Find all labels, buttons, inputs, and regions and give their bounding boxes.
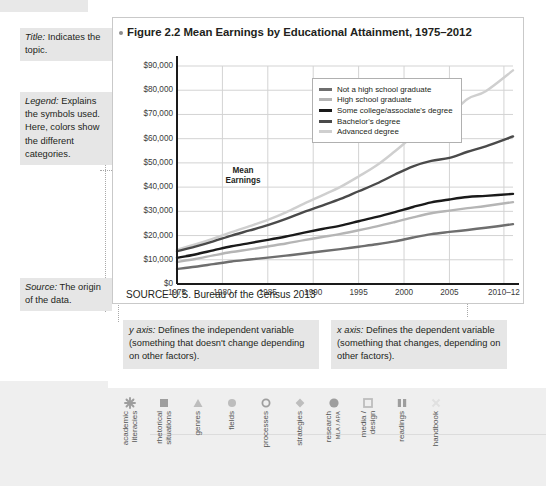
nav-item-genres[interactable]: genres xyxy=(185,395,211,486)
nav-item-label: readings xyxy=(397,411,406,442)
filled-circle-icon xyxy=(226,395,238,407)
nav-item-label: strategies xyxy=(295,411,304,446)
faded-x-icon xyxy=(430,395,442,407)
annotation-x-axis-label: x axis: xyxy=(337,325,363,335)
legend-item: Some college/associate's degree xyxy=(319,105,453,116)
nav-item-label: researchMLA / APA xyxy=(324,411,344,442)
nav-item-strategies[interactable]: strategies xyxy=(287,395,313,486)
legend-item: High school graduate xyxy=(319,95,453,106)
nav-item-research[interactable]: researchMLA / APA xyxy=(321,395,347,486)
x-tick-label: 2005 xyxy=(425,288,473,297)
legend-label: Bachelor's degree xyxy=(337,117,400,126)
asterisk-icon xyxy=(124,395,136,407)
annotation-legend: Legend: Explains the symbols used. Here,… xyxy=(20,92,112,165)
nav-item-label: genres xyxy=(193,411,202,435)
bottom-nav: academicliteraciesrhetoricalsituationsge… xyxy=(0,381,546,486)
y-tick-label: $90,000 xyxy=(117,61,173,70)
nav-item-label: processes xyxy=(261,411,270,447)
legend-swatch-icon xyxy=(319,109,332,112)
nav-item-handbook[interactable]: handbook xyxy=(423,395,449,486)
annotation-title-label: Title: xyxy=(25,32,45,42)
nav-item-processes[interactable]: processes xyxy=(253,395,279,486)
y-tick-label: $0 xyxy=(117,279,173,288)
legend-label: High school graduate xyxy=(337,95,412,104)
top-left-gray-band xyxy=(0,0,88,12)
y-tick-label: $60,000 xyxy=(117,134,173,143)
legend-item: Advanced degree xyxy=(319,126,453,137)
legend-item: Bachelor's degree xyxy=(319,116,453,127)
large-circle-icon xyxy=(328,395,340,407)
legend-label: Some college/associate's degree xyxy=(337,106,453,115)
x-tick-label: 2000 xyxy=(380,288,428,297)
hollow-square-icon xyxy=(362,395,374,407)
legend-label: Advanced degree xyxy=(337,127,399,136)
x-tick-label: 1995 xyxy=(335,288,383,297)
plot-area: Mean Earnings $0$10,000$20,000$30,000$40… xyxy=(113,18,525,305)
nav-item-media--[interactable]: media /design xyxy=(355,395,381,486)
nav-item-label: rhetoricalsituations xyxy=(155,411,174,445)
annotation-y-axis: y axis: Defines the independent variable… xyxy=(123,320,319,369)
y-tick-label: $50,000 xyxy=(117,158,173,167)
nav-item-label: handbook xyxy=(431,411,440,446)
y-tick-label: $40,000 xyxy=(117,182,173,191)
figure-card: Figure 2.2 Mean Earnings by Educational … xyxy=(112,17,524,304)
annotation-legend-label: Legend: xyxy=(25,96,59,106)
legend-label: Not a high school graduate xyxy=(337,85,431,94)
y-tick-label: $80,000 xyxy=(117,85,173,94)
annotation-y-axis-text: Defines the independent variable (someth… xyxy=(129,325,304,361)
nav-item-fields[interactable]: fields xyxy=(219,395,245,486)
annotation-source-label: Source: xyxy=(25,282,57,292)
nav-item-academic[interactable]: academicliteracies xyxy=(117,395,143,486)
triangle-icon xyxy=(192,395,204,407)
nav-item-label: fields xyxy=(227,411,236,430)
diamond-icon xyxy=(294,395,306,407)
legend-item: Not a high school graduate xyxy=(319,84,453,95)
filled-square-icon xyxy=(158,395,170,407)
annotation-title: Title: Indicates the topic. xyxy=(20,28,112,61)
y-tick-label: $70,000 xyxy=(117,109,173,118)
nav-item-rhetorical[interactable]: rhetoricalsituations xyxy=(151,395,177,486)
annotation-y-axis-label: y axis: xyxy=(129,325,155,335)
legend-swatch-icon xyxy=(319,88,332,91)
y-tick-label: $30,000 xyxy=(117,206,173,215)
y-tick-label: $10,000 xyxy=(117,255,173,264)
x-tick-label: 2010–12 xyxy=(480,288,528,297)
annotation-x-axis: x axis: Defines the dependent variable (… xyxy=(331,320,507,369)
annotation-source: Source: The origin of the data. xyxy=(20,278,112,311)
hollow-circle-icon xyxy=(260,395,272,407)
legend-swatch-icon xyxy=(319,98,332,101)
legend-swatch-icon xyxy=(319,130,332,133)
legend-swatch-icon xyxy=(319,120,332,123)
figure-source: SOURCE U.S. Bureau of the Census 2013 xyxy=(126,289,316,300)
chart-legend: Not a high school graduateHigh school gr… xyxy=(312,78,462,143)
book-icon xyxy=(396,395,408,407)
nav-item-readings[interactable]: readings xyxy=(389,395,415,486)
nav-item-label: academicliteracies xyxy=(121,411,140,445)
page-root: Title: Indicates the topic. Legend: Expl… xyxy=(0,0,546,486)
chart-svg xyxy=(113,18,525,305)
nav-item-label: media /design xyxy=(359,411,378,437)
y-tick-label: $20,000 xyxy=(117,231,173,240)
